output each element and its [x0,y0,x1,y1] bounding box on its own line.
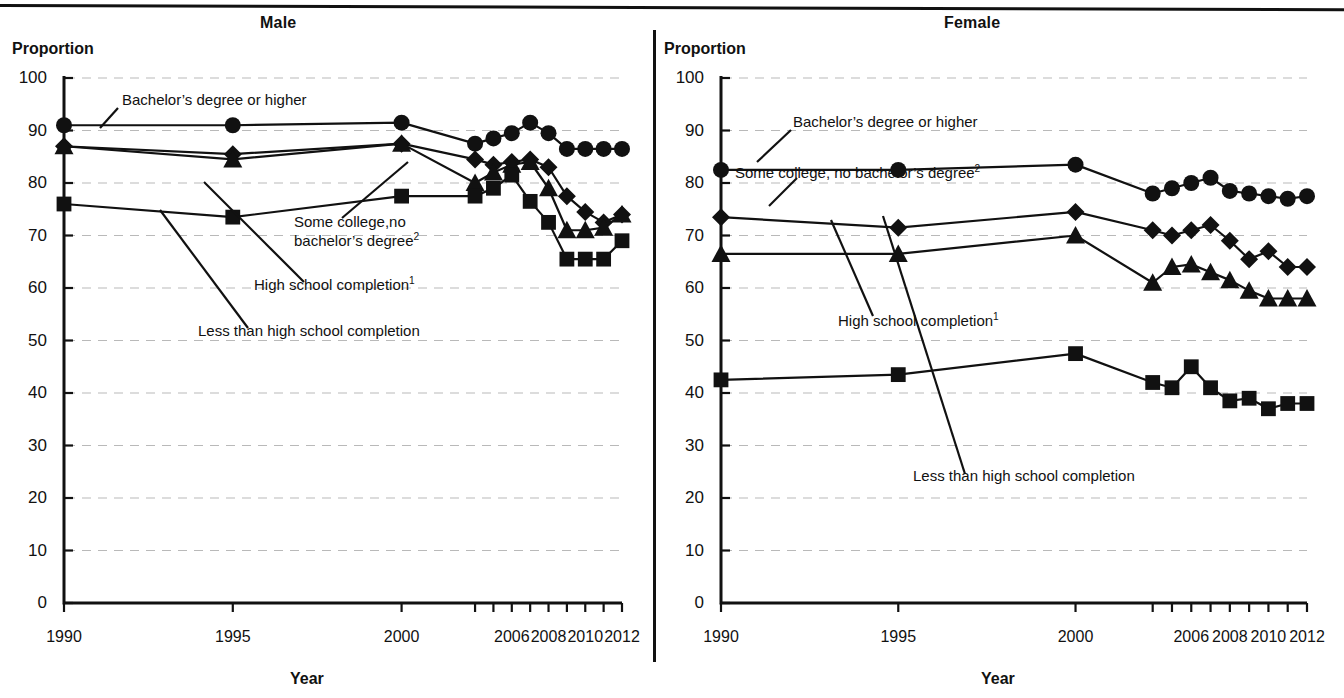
x-axis-tick-1995: 1995 [215,628,251,646]
marker-2-2 [1066,226,1085,244]
marker-3-3 [1145,375,1160,390]
marker-3-11 [1300,396,1315,411]
x-axis-tick-2008: 2008 [1212,628,1248,646]
panel-female: Female Proportion Year Bachelor’s degree… [656,0,1344,698]
marker-3-7 [541,215,556,230]
marker-3-6 [523,194,538,209]
marker-3-2 [1068,346,1083,361]
marker-0-2 [394,115,410,131]
x-axis-tick-2000: 2000 [384,628,420,646]
leader-line-2 [831,220,873,316]
plot-area-female: Bachelor’s degree or higher Some college… [713,70,1313,615]
marker-0-4 [1164,180,1180,196]
marker-0-3 [1145,186,1161,202]
marker-0-3 [467,136,483,152]
x-axis-tick-2010: 2010 [1251,628,1287,646]
panel-male: Male Proportion Year Bachelor’s degree o… [0,0,653,698]
x-axis-tick-2006: 2006 [494,628,530,646]
marker-3-4 [486,181,501,196]
x-axis-tick-1990: 1990 [703,628,739,646]
leader-line-3 [160,210,248,328]
marker-3-10 [1280,396,1295,411]
marker-2-3 [466,174,485,192]
marker-0-10 [1280,191,1296,207]
x-axis-tick-1995: 1995 [880,628,916,646]
marker-3-9 [1261,401,1276,416]
y-axis-tick-90: 90 [28,121,47,141]
annotation-high-school-female-footnote: 1 [993,311,999,322]
marker-0-4 [485,130,501,146]
annotation-high-school-male-text: High school completion [254,276,409,293]
chart-svg-female [713,70,1313,615]
y-axis-label-male: Proportion [12,40,94,58]
x-axis-tick-2000: 2000 [1058,628,1094,646]
marker-3-8 [559,252,574,267]
marker-0-0 [713,162,729,178]
annotation-high-school-female: High school completion1 [838,311,999,330]
annotation-some-college-male: Some college,nobachelor’s degree2 [294,214,419,250]
leader-line-2 [204,182,304,282]
marker-0-8 [559,141,575,157]
marker-3-5 [1184,359,1199,374]
y-axis-tick-60: 60 [685,278,704,298]
annotation-some-college-male-line2: bachelor’s degree [294,232,414,249]
y-axis-tick-30: 30 [28,436,47,456]
y-axis-tick-70: 70 [685,226,704,246]
marker-1-5 [1182,221,1200,239]
leader-line-3 [883,216,965,474]
panel-title-male: Male [260,14,296,32]
y-axis-label-female: Proportion [664,40,746,58]
y-axis-tick-0: 0 [38,593,47,613]
marker-3-5 [504,168,519,183]
y-axis-tick-80: 80 [28,173,47,193]
leader-line-0 [757,130,791,162]
annotation-high-school-male: High school completion1 [254,275,415,294]
marker-3-9 [578,252,593,267]
x-axis-tick-2012: 2012 [604,628,640,646]
y-axis-tick-90: 90 [685,121,704,141]
marker-0-5 [1183,175,1199,191]
y-axis-tick-10: 10 [685,541,704,561]
marker-1-1 [889,219,907,237]
marker-3-11 [615,233,630,248]
y-axis-tick-50: 50 [28,331,47,351]
marker-3-8 [1242,391,1257,406]
marker-2-3 [1143,273,1162,291]
annotation-some-college-female: Some college, no bachelor’s degree2 [735,163,980,182]
marker-2-5 [1182,255,1201,273]
marker-0-5 [504,125,520,141]
marker-0-7 [541,125,557,141]
annotation-high-school-female-text: High school completion [838,312,993,329]
marker-0-6 [1203,170,1219,186]
series-line-3 [721,354,1307,409]
annotation-less-than-hs-male: Less than high school completion [198,323,420,340]
x-axis-tick-2012: 2012 [1289,628,1325,646]
series-line-2 [721,236,1307,299]
y-axis-tick-20: 20 [685,488,704,508]
y-axis-tick-100: 100 [19,68,47,88]
y-axis-tick-50: 50 [685,331,704,351]
annotation-bachelor-male: Bachelor’s degree or higher [122,92,307,109]
y-axis-tick-0: 0 [695,593,704,613]
figure-root: Male Proportion Year Bachelor’s degree o… [0,0,1344,698]
annotation-some-college-female-text: Some college, no bachelor’s degree [735,164,975,181]
marker-1-3 [1144,221,1162,239]
y-axis-tick-10: 10 [28,541,47,561]
marker-0-2 [1068,157,1084,173]
marker-1-3 [466,150,484,168]
y-axis-tick-80: 80 [685,173,704,193]
marker-0-11 [614,141,630,157]
x-axis-label-male: Year [290,670,324,688]
marker-0-9 [1260,188,1276,204]
marker-3-7 [1222,393,1237,408]
axis-lines [721,76,1307,603]
marker-0-0 [56,117,72,133]
annotation-some-college-male-line1: Some college,no [294,213,406,230]
y-axis-tick-70: 70 [28,226,47,246]
marker-3-4 [1165,380,1180,395]
plot-area-male: Bachelor’s degree or higher Some college… [56,70,628,615]
marker-0-11 [1299,188,1315,204]
marker-3-10 [596,252,611,267]
panel-title-female: Female [944,14,1000,32]
y-axis-tick-60: 60 [28,278,47,298]
